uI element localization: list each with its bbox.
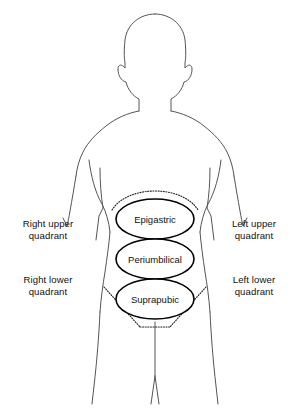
quadrant-label-left-lower: Left lower quadrant bbox=[210, 274, 298, 297]
right-hip-outline bbox=[200, 232, 210, 312]
region-periumbilical[interactable]: Periumbilical bbox=[116, 239, 194, 279]
left-hip-outline bbox=[100, 232, 110, 312]
body-outline-diagram: Epigastric Periumbilical Suprapubic bbox=[0, 0, 302, 412]
left-shoulder-outline bbox=[76, 111, 139, 176]
quadrant-label-right-upper: Right upper quadrant bbox=[4, 218, 92, 241]
left-leg-outline bbox=[92, 312, 100, 404]
quadrant-label-left-upper: Left upper quadrant bbox=[210, 218, 298, 241]
region-epigastric-label: Epigastric bbox=[134, 214, 176, 225]
abdominal-regions-figure: Epigastric Periumbilical Suprapubic Righ… bbox=[0, 0, 302, 412]
region-epigastric[interactable]: Epigastric bbox=[116, 199, 194, 239]
right-leg-outline bbox=[210, 312, 218, 404]
right-inner-leg-outline bbox=[155, 376, 159, 404]
quadrant-label-right-lower: Right lower quadrant bbox=[4, 274, 92, 297]
region-suprapubic[interactable]: Suprapubic bbox=[116, 279, 194, 319]
head-outline-right bbox=[155, 14, 192, 111]
left-inner-leg-outline bbox=[151, 376, 155, 404]
region-periumbilical-label: Periumbilical bbox=[128, 254, 182, 265]
left-torso-outline bbox=[89, 160, 110, 232]
region-suprapubic-label: Suprapubic bbox=[131, 294, 179, 305]
right-shoulder-outline bbox=[171, 111, 234, 176]
head-outline bbox=[118, 14, 155, 111]
